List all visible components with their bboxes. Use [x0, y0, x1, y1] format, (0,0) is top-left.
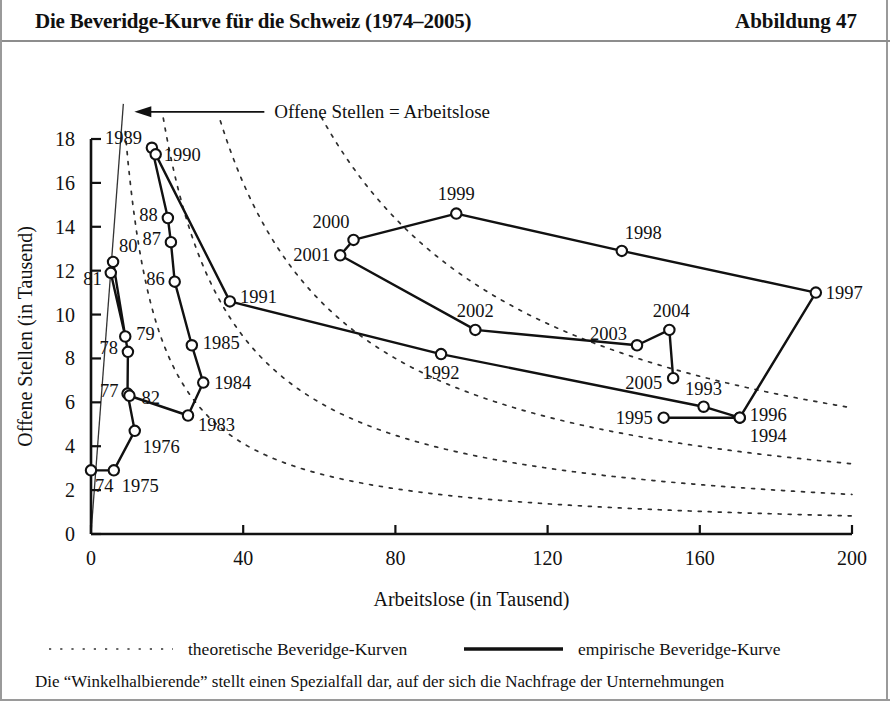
y-tick-label: 6: [65, 391, 75, 413]
point-label: 80: [119, 236, 138, 256]
point-labels-group: 7419751976778278798081198319841985868788…: [83, 128, 863, 497]
data-point-marker: [664, 325, 674, 335]
legend-label-empirical: empirische Beveridge-Kurve: [578, 639, 781, 660]
y-axis-label: Offene Stellen (in Tausend): [14, 226, 37, 447]
point-label: 2004: [653, 301, 690, 321]
annotation-label: Offene Stellen = Arbeitslose: [274, 101, 490, 122]
data-point-marker: [335, 250, 345, 260]
point-label: 74: [95, 476, 114, 496]
point-label: 86: [146, 269, 165, 289]
data-point-marker: [348, 235, 358, 245]
x-tick-label: 160: [685, 547, 715, 569]
data-point-marker: [668, 373, 678, 383]
figure-caption: Die “Winkelhalbierende” stellt einen Spe…: [35, 672, 865, 692]
point-label: 1995: [616, 408, 653, 428]
point-label: 1996: [750, 405, 787, 425]
data-point-marker: [120, 331, 130, 341]
legend-item-empirical: empirische Beveridge-Kurve: [462, 630, 781, 668]
data-point-marker: [163, 213, 173, 223]
point-label: 1989: [105, 128, 142, 148]
data-point-marker: [124, 391, 134, 401]
point-label: 2001: [293, 245, 330, 265]
y-tick-label: 0: [65, 523, 75, 545]
point-label: 87: [142, 229, 161, 249]
annotation-group: Offene Stellen = Arbeitslose: [134, 101, 490, 122]
y-tick-label: 4: [65, 435, 75, 457]
point-label: 1983: [198, 415, 235, 435]
point-label: 1984: [214, 373, 251, 393]
arrow-head-icon: [134, 106, 151, 117]
point-label: 77: [100, 381, 119, 401]
data-point-marker: [658, 412, 668, 422]
y-tick-label: 12: [55, 260, 75, 282]
data-point-marker: [123, 347, 133, 357]
x-tick-label: 40: [233, 547, 253, 569]
data-point-marker: [108, 257, 118, 267]
data-point-marker: [470, 325, 480, 335]
data-point-marker: [225, 296, 235, 306]
y-tick-label: 16: [55, 172, 75, 194]
point-label: 1975: [122, 476, 159, 496]
point-label: 1990: [164, 145, 201, 165]
y-tick-label: 2: [65, 479, 75, 501]
y-tick-label: 14: [55, 216, 75, 238]
data-point-marker: [187, 340, 197, 350]
data-point-marker: [617, 246, 627, 256]
data-point-marker: [183, 410, 193, 420]
point-label: 81: [83, 269, 102, 289]
data-point-marker: [130, 426, 140, 436]
x-tick-label: 120: [533, 547, 563, 569]
data-point-marker: [109, 465, 119, 475]
theoretical-curve: [125, 132, 852, 516]
point-label: 1991: [240, 287, 277, 307]
data-point-marker: [170, 276, 180, 286]
plot-area: 04080120160200024681012141618 7419751976…: [2, 42, 890, 630]
point-label: 1992: [423, 363, 460, 383]
point-label: 2000: [313, 212, 350, 232]
point-label: 1999: [438, 184, 475, 204]
data-point-marker: [451, 208, 461, 218]
y-tick-label: 18: [55, 128, 75, 150]
point-label: 78: [99, 338, 118, 358]
figure-number: Abbildung 47: [735, 9, 857, 34]
data-point-marker: [811, 287, 821, 297]
solid-line-icon: [462, 643, 565, 655]
figure-header: Die Beveridge-Kurve für die Schweiz (197…: [2, 0, 890, 42]
y-tick-label: 10: [55, 304, 75, 326]
point-label: 1976: [143, 437, 180, 457]
x-tick-label: 80: [385, 547, 405, 569]
page-title: Die Beveridge-Kurve für die Schweiz (197…: [35, 9, 471, 34]
data-point-marker: [86, 465, 96, 475]
beveridge-curve-chart: 04080120160200024681012141618 7419751976…: [2, 42, 890, 630]
point-label: 82: [141, 388, 160, 408]
point-label: 1985: [203, 333, 240, 353]
data-point-marker: [166, 237, 176, 247]
data-point-marker: [106, 268, 116, 278]
point-label: 88: [139, 205, 158, 225]
legend-label-theoretical: theoretische Beveridge-Kurven: [188, 639, 407, 660]
data-point-marker: [436, 349, 446, 359]
data-point-marker: [632, 340, 642, 350]
data-point-marker: [735, 412, 745, 422]
data-point-marker: [150, 149, 160, 159]
point-label: 1998: [625, 223, 662, 243]
data-point-marker: [198, 377, 208, 387]
point-label: 1993: [685, 379, 722, 399]
data-point-marker: [698, 402, 708, 412]
x-axis-label: Arbeitslose (in Tausend): [374, 588, 570, 611]
point-label: 2005: [625, 373, 662, 393]
point-label: 1997: [826, 283, 863, 303]
dashed-line-icon: [47, 643, 175, 655]
chart-legend: theoretische Beveridge-Kurven empirische…: [2, 630, 890, 668]
point-label: 2002: [457, 301, 494, 321]
point-label: 79: [136, 324, 155, 344]
x-tick-label: 200: [837, 547, 867, 569]
point-label: 1994: [750, 426, 787, 446]
x-tick-label: 0: [86, 547, 96, 569]
legend-item-theoretical: theoretische Beveridge-Kurven: [47, 630, 407, 668]
point-label: 2003: [590, 324, 627, 344]
y-tick-label: 8: [65, 347, 75, 369]
